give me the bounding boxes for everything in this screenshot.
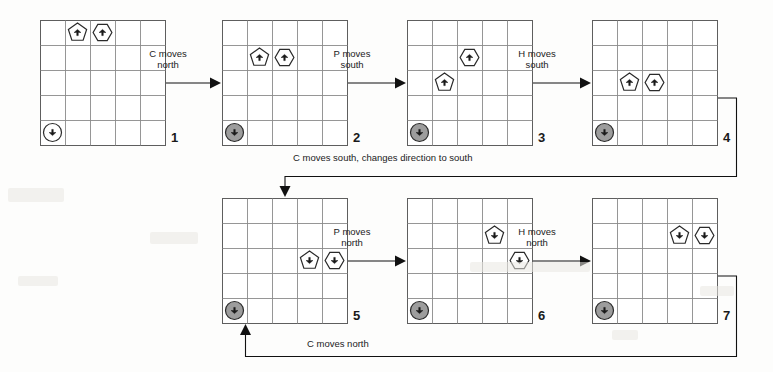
scan-artifact (700, 286, 734, 296)
arrowhead-right-icon (210, 78, 221, 89)
scan-artifact (150, 232, 198, 244)
diagram-vector-layer (0, 0, 773, 372)
panel-number-label: 6 (538, 309, 545, 322)
transition-label: H moves north (509, 226, 565, 248)
hexagon-agent-icon (93, 24, 112, 40)
transition-label: P moves south (324, 48, 380, 70)
panel-4 (593, 21, 718, 146)
panel-1 (41, 21, 166, 146)
hexagon-agent-icon (325, 252, 344, 268)
arrowhead-right-icon (395, 256, 406, 267)
scan-artifact (470, 262, 590, 272)
panel-number-label: 3 (538, 131, 545, 144)
panel-5 (223, 199, 348, 324)
transition-t3 (533, 78, 591, 89)
transition-label: P moves north (324, 226, 380, 248)
panel-number-label: 1 (171, 131, 178, 144)
transition-t1 (166, 78, 221, 89)
panel-number-label: 2 (353, 131, 360, 144)
panel-3 (408, 21, 533, 146)
transition-label: C moves north (307, 338, 369, 349)
transition-t2 (348, 78, 406, 89)
arrowhead-up-icon (240, 324, 251, 335)
transition-label: C moves north (140, 48, 196, 70)
transition-label: C moves south, changes direction to sout… (293, 152, 473, 163)
panel-number-label: 7 (723, 309, 730, 322)
circle-agent-icon (596, 302, 614, 320)
hexagon-agent-icon (460, 49, 479, 65)
hexagon-agent-icon (275, 49, 294, 65)
panel-6 (408, 199, 533, 324)
circle-agent-icon (226, 302, 244, 320)
arrowhead-right-icon (395, 78, 406, 89)
diagram-canvas: 1234567C moves northP moves southH moves… (0, 0, 773, 372)
transition-t5 (348, 256, 406, 267)
panel-7 (593, 199, 718, 324)
arrowhead-down-icon (280, 186, 291, 197)
circle-agent-icon (44, 124, 62, 142)
circle-agent-icon (411, 302, 429, 320)
hexagon-agent-icon (695, 227, 714, 243)
circle-agent-icon (596, 124, 614, 142)
panel-number-label: 5 (353, 309, 360, 322)
circle-agent-icon (411, 124, 429, 142)
scan-artifact (612, 330, 638, 340)
scan-artifact (8, 188, 64, 202)
arrowhead-right-icon (580, 78, 591, 89)
hexagon-agent-icon (645, 74, 664, 90)
scan-artifact (18, 276, 58, 286)
transition-label: H moves south (509, 48, 565, 70)
panel-2 (223, 21, 348, 146)
circle-agent-icon (226, 124, 244, 142)
panel-number-label: 4 (723, 131, 730, 144)
